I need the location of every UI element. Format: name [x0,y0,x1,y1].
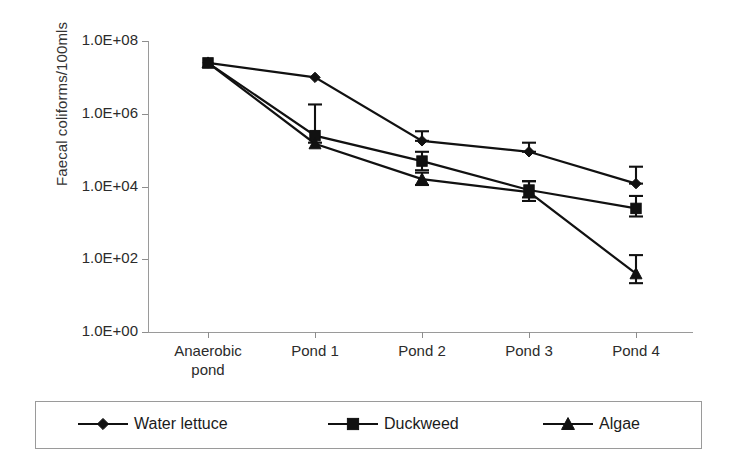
legend: Water lettuceDuckweedAlgae [35,401,702,449]
data-marker-square [347,418,358,429]
x-tick-label: Pond 1 [255,341,375,360]
series-layer [148,41,693,333]
legend-marker-square-icon [326,413,380,435]
data-marker-diamond [97,418,108,429]
plot-area: 1.0E+081.0E+061.0E+041.0E+021.0E+00 Anae… [148,41,693,333]
legend-item-algae[interactable]: Algae [541,412,640,436]
legend-label: Duckweed [380,415,459,433]
y-tick-label: 1.0E+04 [82,177,138,194]
x-tick-label: Pond 4 [576,341,696,360]
data-marker-square [417,156,427,166]
y-tick-label: 1.0E+06 [82,104,138,121]
y-tick-label: 1.0E+08 [82,31,138,48]
legend-item-duckweed[interactable]: Duckweed [326,412,459,436]
data-marker-diamond [631,178,641,188]
chart-figure: Faecal coliforms/100mls 1.0E+081.0E+061.… [0,0,737,469]
x-tick-label: Anaerobic pond [148,341,268,379]
legend-label: Water lettuce [130,415,228,433]
y-tick-label: 1.0E+02 [82,249,138,266]
legend-item-water-lettuce[interactable]: Water lettuce [76,412,228,436]
legend-marker-triangle-icon [541,413,595,435]
y-tick-label: 1.0E+00 [82,322,138,339]
x-tick-label: Pond 2 [362,341,482,360]
legend-label: Algae [595,415,640,433]
data-marker-diamond [524,147,534,157]
legend-marker-diamond-icon [76,413,130,435]
data-marker-diamond [310,72,320,82]
x-tick-label: Pond 3 [469,341,589,360]
data-marker-square [631,203,641,213]
y-axis-title: Faecal coliforms/100mls [53,0,77,229]
figure-canvas: Faecal coliforms/100mls 1.0E+081.0E+061.… [0,0,737,469]
data-marker-diamond [417,136,427,146]
